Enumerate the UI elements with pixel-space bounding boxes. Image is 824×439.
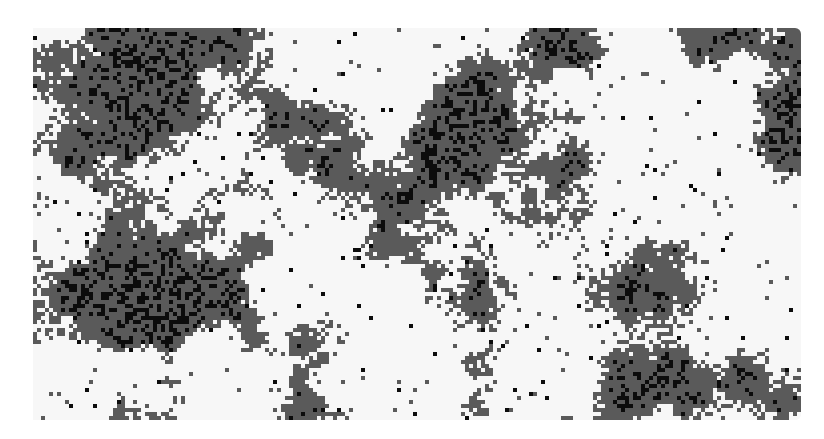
raster-map <box>33 28 801 420</box>
map-canvas <box>33 28 801 420</box>
